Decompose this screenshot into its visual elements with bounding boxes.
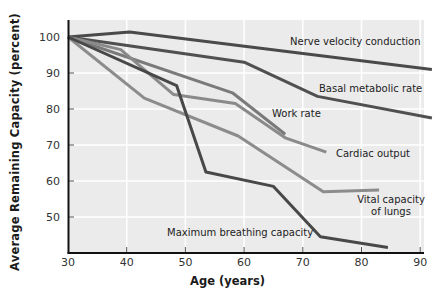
x-tick-label: 30 bbox=[61, 256, 75, 269]
series-label: of lungs bbox=[371, 206, 411, 217]
series-label: Basal metabolic rate bbox=[319, 83, 422, 94]
y-axis-title: Average Remaining Capacity (percent) bbox=[5, 22, 25, 262]
y-tick-label: 100 bbox=[39, 31, 60, 44]
y-axis-title-text: Average Remaining Capacity (percent) bbox=[8, 13, 22, 271]
series-label: Maximum breathing capacity bbox=[167, 227, 313, 238]
x-tick-label: 90 bbox=[413, 256, 427, 269]
series-label: Work rate bbox=[272, 108, 321, 119]
y-tick-label: 80 bbox=[46, 103, 60, 116]
y-tick-label: 70 bbox=[46, 139, 60, 152]
x-tick-label: 70 bbox=[296, 256, 310, 269]
line-chart: 304050607080905060708090100 Nerve veloci… bbox=[0, 0, 447, 304]
series-label: Vital capacity bbox=[357, 194, 425, 205]
x-tick-label: 40 bbox=[120, 256, 134, 269]
series-label: Cardiac output bbox=[336, 148, 410, 159]
y-tick-label: 50 bbox=[46, 211, 60, 224]
x-tick-label: 60 bbox=[237, 256, 251, 269]
series-label: Nerve velocity conduction bbox=[290, 36, 421, 47]
x-tick-label: 50 bbox=[178, 256, 192, 269]
x-tick-label: 80 bbox=[355, 256, 369, 269]
y-tick-label: 60 bbox=[46, 175, 60, 188]
x-axis-title: Age (years) bbox=[190, 274, 265, 288]
y-tick-label: 90 bbox=[46, 67, 60, 80]
